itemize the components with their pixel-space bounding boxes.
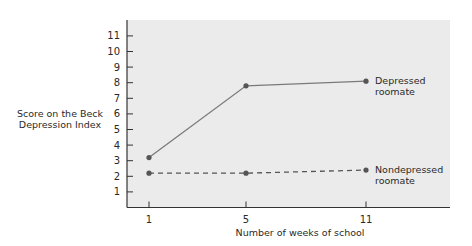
depressed-series-line <box>149 81 366 157</box>
data-point <box>363 167 368 172</box>
data-point <box>243 171 248 176</box>
legend-depressed-line1: Depressed <box>375 75 426 86</box>
y-tick-label: 3 <box>114 155 120 166</box>
y-tick-label: 1 <box>114 186 120 197</box>
data-point <box>363 79 368 84</box>
y-axis-label-line1: Score on the Beck <box>5 108 115 119</box>
data-point <box>146 155 151 160</box>
y-tick-label: 7 <box>114 93 120 104</box>
legend-depressed-line2: roomate <box>375 86 426 97</box>
y-tick-label: 9 <box>114 62 120 73</box>
legend-nondepressed-line2: roomate <box>375 175 443 186</box>
x-tick-label: 11 <box>360 214 373 225</box>
data-point <box>243 83 248 88</box>
y-axis-label: Score on the Beck Depression Index <box>5 108 115 130</box>
x-axis-label: Number of weeks of school <box>180 227 420 238</box>
y-tick-label: 10 <box>107 46 120 57</box>
y-tick-label: 8 <box>114 77 120 88</box>
legend-nondepressed: Nondepressed roomate <box>375 164 443 186</box>
y-tick-label: 11 <box>107 30 120 41</box>
data-point <box>146 171 151 176</box>
legend-nondepressed-line1: Nondepressed <box>375 164 443 175</box>
y-tick-label: 2 <box>114 171 120 182</box>
y-tick-label: 4 <box>114 140 120 151</box>
legend-depressed: Depressed roomate <box>375 75 426 97</box>
y-axis-label-line2: Depression Index <box>5 119 115 130</box>
x-tick-label: 5 <box>243 214 249 225</box>
nondepressed-series-line <box>149 170 366 173</box>
x-tick-label: 1 <box>146 214 152 225</box>
